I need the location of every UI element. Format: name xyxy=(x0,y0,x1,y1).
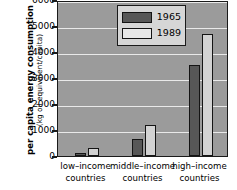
legend-item-1989: 1989 xyxy=(122,26,181,40)
y-tick-label: 2000 xyxy=(9,100,55,109)
bar-1965-0 xyxy=(75,153,86,156)
x-axis-tick-labels: low–incomecountriesmiddle–incomecountrie… xyxy=(57,160,228,190)
bar-1989-1 xyxy=(145,125,156,156)
legend-label-1965: 1965 xyxy=(157,12,181,22)
y-tick-label: 0 xyxy=(9,152,55,161)
x-tick-label-2: high–incomecountries xyxy=(167,160,232,185)
legend-swatch-1989 xyxy=(122,28,152,39)
x-tick-label-line: countries xyxy=(110,172,175,184)
x-tick-label-1: middle–incomecountries xyxy=(110,160,175,185)
grid-line xyxy=(58,2,227,3)
x-tick-label-line: high–income xyxy=(167,160,232,172)
plot-area: 1965 1989 xyxy=(57,1,228,157)
bar-1989-2 xyxy=(202,34,213,156)
x-tick-label-line: countries xyxy=(167,172,232,184)
x-tick-label-line: middle–income xyxy=(110,160,175,172)
bar-1965-1 xyxy=(132,139,143,156)
x-tick-label-0: low–incomecountries xyxy=(53,160,118,185)
y-tick-label: 6000 xyxy=(9,0,55,5)
bar-chart: per capita energy consumption (kg oil eq… xyxy=(0,0,237,190)
legend-label-1989: 1989 xyxy=(157,28,181,38)
y-tick-label: 1000 xyxy=(9,126,55,135)
legend-item-1965: 1965 xyxy=(122,10,181,24)
bar-1965-2 xyxy=(189,65,200,156)
y-tick-label: 5000 xyxy=(9,22,55,31)
y-tick-label: 4000 xyxy=(9,48,55,57)
x-tick-label-line: low–income xyxy=(53,160,118,172)
bar-1989-0 xyxy=(88,148,99,156)
legend: 1965 1989 xyxy=(117,5,186,46)
x-tick-label-line: countries xyxy=(53,172,118,184)
legend-swatch-1965 xyxy=(122,12,152,23)
y-tick-label: 3000 xyxy=(9,74,55,83)
